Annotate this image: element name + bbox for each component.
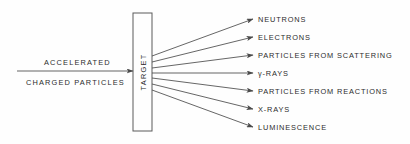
emission-label: PARTICLES FROM REACTIONS <box>258 87 388 96</box>
emission-label: LUMINESCENCE <box>258 123 327 132</box>
input-beam-label-line1: ACCELERATED <box>44 58 111 67</box>
emission-label: X-RAYS <box>258 105 290 114</box>
emission-ray <box>152 37 253 62</box>
emission-ray <box>152 90 253 127</box>
emission-ray <box>152 19 253 56</box>
emission-labels-group: NEUTRONSELECTRONSPARTICLES FROM SCATTERI… <box>258 15 393 132</box>
emission-ray <box>152 78 253 91</box>
emission-label: γ-RAYS <box>258 69 289 78</box>
input-beam-group: ACCELERATED CHARGED PARTICLES <box>17 58 133 87</box>
emission-label: NEUTRONS <box>258 15 306 24</box>
emission-label: ELECTRONS <box>258 33 311 42</box>
emission-ray <box>152 84 253 109</box>
emission-ray <box>152 55 253 68</box>
target-box-label: TARGET <box>139 53 148 90</box>
emission-rays-group <box>152 19 253 127</box>
target-box-group: TARGET <box>133 13 152 131</box>
diagram-svg: ACCELERATED CHARGED PARTICLES TARGET NEU… <box>0 0 410 144</box>
input-beam-label-line2: CHARGED PARTICLES <box>26 78 125 87</box>
emission-label: PARTICLES FROM SCATTERING <box>258 51 393 60</box>
diagram-canvas: ACCELERATED CHARGED PARTICLES TARGET NEU… <box>0 0 410 144</box>
